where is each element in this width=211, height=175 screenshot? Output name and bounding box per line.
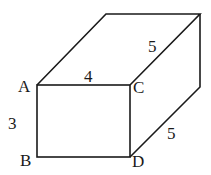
edge-label-width: 4	[84, 67, 93, 86]
vertex-label-c: C	[133, 78, 144, 97]
prism-diagram: A C B D 4 3 5 5	[0, 0, 211, 175]
vertex-label-a: A	[18, 77, 31, 96]
edge-label-bottom-depth: 5	[167, 124, 176, 143]
vertex-label-b: B	[20, 151, 31, 170]
vertex-label-d: D	[132, 152, 144, 171]
edge-label-top-depth: 5	[148, 37, 157, 56]
edge-label-height: 3	[8, 114, 17, 133]
top-face-edges	[37, 14, 200, 85]
front-face	[37, 85, 130, 157]
